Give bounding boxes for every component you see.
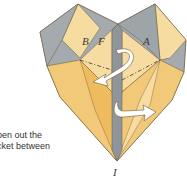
caption-line-3: -: [0, 152, 50, 163]
label-bottom-i: I: [112, 166, 118, 178]
label-b: B: [82, 35, 89, 47]
caption-line-2: cket between: [0, 141, 50, 152]
instruction-caption: pen out the cket between -: [0, 130, 50, 163]
center-strip: [112, 24, 122, 161]
caption-line-1: pen out the: [0, 130, 50, 141]
label-a: A: [142, 35, 150, 47]
label-f: F: [97, 35, 105, 47]
